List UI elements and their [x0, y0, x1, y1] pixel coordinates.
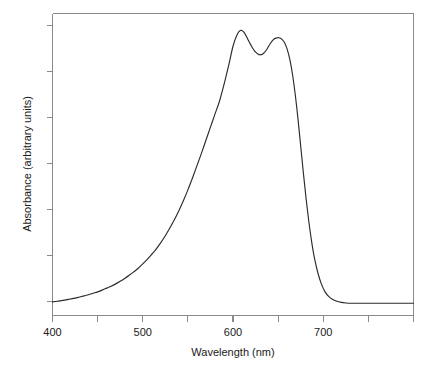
x-tick-label-500: 500 [134, 326, 152, 338]
x-tick-label-600: 600 [224, 326, 242, 338]
figure-background [0, 0, 433, 370]
spectrum-plot: 400 500 600 700 Wavelength (nm) Absorban… [0, 0, 433, 370]
x-tick-label-400: 400 [43, 326, 61, 338]
absorption-spectrum-figure: 400 500 600 700 Wavelength (nm) Absorban… [0, 0, 433, 370]
x-tick-label-700: 700 [314, 326, 332, 338]
x-axis-title: Wavelength (nm) [191, 346, 274, 358]
y-axis-title: Absorbance (arbitrary units) [21, 96, 33, 232]
